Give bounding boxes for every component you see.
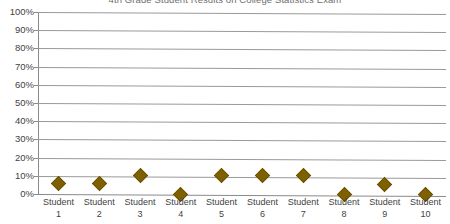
x-axis-category-labels: Student1Student2Student3Student4Student5… xyxy=(38,197,446,224)
x-category-label-line1: Student xyxy=(281,197,325,209)
y-tick-label: 70% xyxy=(0,62,34,72)
x-category-label-line1: Student xyxy=(159,197,203,209)
plot-area xyxy=(38,12,446,194)
gridline-80 xyxy=(38,48,446,51)
x-category-label: Student3 xyxy=(118,197,162,220)
x-category-label: Student9 xyxy=(363,197,407,220)
gridline-30 xyxy=(38,139,446,142)
x-category-label: Student4 xyxy=(159,197,203,220)
y-tick-label: 80% xyxy=(0,43,34,53)
x-category-label: Student5 xyxy=(200,197,244,220)
gridline-20 xyxy=(38,158,446,161)
x-category-label-line1: Student xyxy=(322,197,366,209)
gridlines xyxy=(38,12,446,194)
gridline-90 xyxy=(38,30,446,33)
y-tick-label: 10% xyxy=(0,171,34,181)
chart-container: 4th Grade Student Results on College Sta… xyxy=(0,0,450,224)
x-category-label: Student2 xyxy=(77,197,121,220)
x-category-label-line2: 7 xyxy=(281,209,325,221)
x-category-label-line2: 2 xyxy=(77,209,121,221)
y-tick-label: 90% xyxy=(0,25,34,35)
x-category-label: Student1 xyxy=(36,197,80,220)
x-category-label: Student8 xyxy=(322,197,366,220)
x-category-label-line1: Student xyxy=(363,197,407,209)
x-category-label-line2: 3 xyxy=(118,209,162,221)
gridline-60 xyxy=(38,85,446,88)
y-tick-label: 0% xyxy=(0,189,34,199)
y-tick-label: 30% xyxy=(0,134,34,144)
x-category-label-line2: 1 xyxy=(36,209,80,221)
x-category-label-line2: 6 xyxy=(240,209,284,221)
x-category-label-line2: 5 xyxy=(200,209,244,221)
gridline-70 xyxy=(38,67,446,70)
y-tick-label: 60% xyxy=(0,80,34,90)
x-category-label: Student10 xyxy=(404,197,448,220)
x-category-label-line1: Student xyxy=(404,197,448,209)
x-category-label-line1: Student xyxy=(240,197,284,209)
x-category-label-line1: Student xyxy=(200,197,244,209)
y-tick-label: 100% xyxy=(0,7,34,17)
y-tick-label: 50% xyxy=(0,98,34,108)
gridline-50 xyxy=(38,103,446,106)
x-category-label-line2: 9 xyxy=(363,209,407,221)
x-category-label-line1: Student xyxy=(36,197,80,209)
y-tick-label: 20% xyxy=(0,153,34,163)
x-category-label: Student6 xyxy=(240,197,284,220)
x-category-label-line2: 4 xyxy=(159,209,203,221)
x-category-label-line2: 8 xyxy=(322,209,366,221)
x-category-label-line2: 10 xyxy=(404,209,448,221)
y-tick-label: 40% xyxy=(0,116,34,126)
gridline-40 xyxy=(38,121,446,124)
gridline-100 xyxy=(38,12,446,15)
x-category-label-line1: Student xyxy=(118,197,162,209)
x-category-label-line1: Student xyxy=(77,197,121,209)
x-category-label: Student7 xyxy=(281,197,325,220)
